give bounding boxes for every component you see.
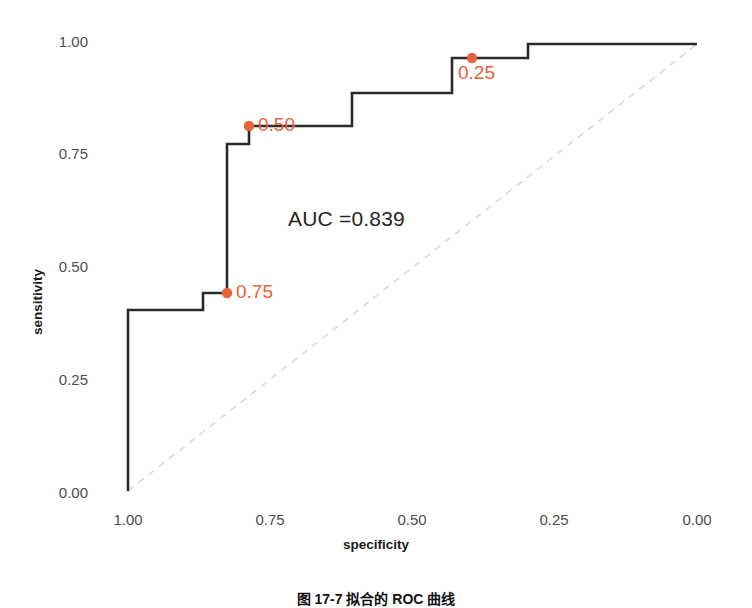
threshold-label-0-50: 0.50 — [258, 114, 295, 136]
threshold-label-0-75: 0.75 — [236, 281, 273, 303]
x-tick-label-0-75: 0.75 — [240, 511, 300, 528]
x-axis-title: specificity — [0, 537, 752, 552]
y-tick-label-0-75: 0.75 — [28, 145, 88, 162]
auc-annotation: AUC =0.839 — [288, 207, 405, 231]
y-axis-title: sensitivity — [30, 269, 45, 335]
y-tick-label-1-00: 1.00 — [28, 33, 88, 50]
threshold-point-0-75 — [222, 288, 232, 298]
figure-caption: 图 17-7 拟合的 ROC 曲线 — [0, 588, 752, 608]
x-tick-label-0-25: 0.25 — [524, 511, 584, 528]
x-tick-label-0-50: 0.50 — [382, 511, 442, 528]
x-tick-label-0-00: 0.00 — [667, 511, 727, 528]
y-tick-label-0-25: 0.25 — [28, 371, 88, 388]
x-tick-label-1-00: 1.00 — [98, 511, 158, 528]
reference-diagonal-line — [128, 44, 697, 491]
threshold-label-0-25: 0.25 — [458, 62, 495, 84]
threshold-point-0-50 — [244, 121, 254, 131]
y-tick-label-0-00: 0.00 — [28, 484, 88, 501]
